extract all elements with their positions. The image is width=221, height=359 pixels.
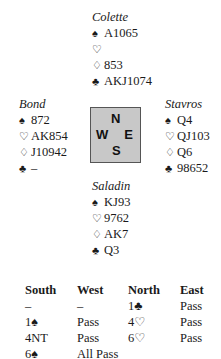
diamond-icon: ♢: [165, 144, 177, 160]
north-diamonds: ♢853: [92, 57, 152, 73]
bid: –: [25, 298, 77, 314]
north-hearts: ♡: [92, 41, 152, 57]
heart-icon: ♡: [165, 128, 177, 144]
east-hand: Stavros ♠Q4 ♡QJ103 ♢Q6 ♣98652: [165, 96, 210, 176]
compass-west: W: [96, 127, 108, 142]
auction-row: 4NT Pass 6♡ Pass: [25, 330, 221, 346]
east-hearts: ♡QJ103: [165, 128, 210, 144]
header-west: West: [77, 282, 128, 298]
spade-icon: ♠: [92, 25, 104, 41]
south-spades: ♠KJ93: [92, 194, 130, 210]
spade-icon: ♠: [92, 194, 104, 210]
bid: 1♣: [128, 298, 180, 314]
east-diamonds: ♢Q6: [165, 144, 210, 160]
player-name-east: Stavros: [165, 96, 210, 112]
spade-icon: ♠: [19, 112, 31, 128]
west-spades: ♠872: [19, 112, 68, 128]
bid: Pass: [77, 330, 128, 346]
player-name-north: Colette: [92, 9, 152, 25]
bid: 4♡: [128, 314, 180, 330]
auction-header-row: South West North East: [25, 282, 221, 298]
south-diamonds: ♢AK7: [92, 226, 130, 242]
west-hearts: ♡AK854: [19, 128, 68, 144]
spade-icon: ♠: [165, 112, 177, 128]
header-north: North: [128, 282, 180, 298]
east-clubs: ♣98652: [165, 160, 210, 176]
club-icon: ♣: [92, 73, 104, 89]
compass-box: N W E S: [90, 107, 141, 163]
bid: 6♠: [25, 346, 77, 359]
auction-row: 1♠ Pass 4♡ Pass: [25, 314, 221, 330]
bid: 4NT: [25, 330, 77, 346]
compass-north: N: [111, 111, 120, 126]
west-diamonds: ♢J10942: [19, 144, 68, 160]
diamond-icon: ♢: [19, 144, 31, 160]
bid: Pass: [180, 314, 221, 330]
compass-south: S: [112, 143, 121, 158]
south-hearts: ♡9762: [92, 210, 130, 226]
player-name-west: Bond: [19, 96, 68, 112]
bid: Pass: [180, 298, 221, 314]
bid: 1♠: [25, 314, 77, 330]
bid: 6♡: [128, 330, 180, 346]
heart-icon: ♡: [19, 128, 31, 144]
header-south: South: [25, 282, 77, 298]
bid: Pass: [180, 330, 221, 346]
club-icon: ♣: [19, 160, 31, 176]
north-spades: ♠A1065: [92, 25, 152, 41]
bid: [180, 346, 221, 359]
bid: [128, 346, 180, 359]
club-icon: ♣: [92, 242, 104, 258]
west-hand: Bond ♠872 ♡AK854 ♢J10942 ♣–: [19, 96, 68, 176]
header-east: East: [180, 282, 221, 298]
heart-icon: ♡: [92, 210, 104, 226]
club-icon: ♣: [165, 160, 177, 176]
auction-table: South West North East – – 1♣ Pass 1♠ Pas…: [25, 282, 221, 359]
diamond-icon: ♢: [92, 226, 104, 242]
compass-east: E: [124, 127, 133, 142]
south-hand: Saladin ♠KJ93 ♡9762 ♢AK7 ♣Q3: [92, 178, 130, 258]
north-hand: Colette ♠A1065 ♡ ♢853 ♣AKJ1074: [92, 9, 152, 89]
bid: All Pass: [77, 346, 128, 359]
west-clubs: ♣–: [19, 160, 68, 176]
auction-row: 6♠ All Pass: [25, 346, 221, 359]
bid: Pass: [77, 314, 128, 330]
bid: –: [77, 298, 128, 314]
south-clubs: ♣Q3: [92, 242, 130, 258]
east-spades: ♠Q4: [165, 112, 210, 128]
auction-row: – – 1♣ Pass: [25, 298, 221, 314]
heart-icon: ♡: [92, 41, 104, 57]
north-clubs: ♣AKJ1074: [92, 73, 152, 89]
diamond-icon: ♢: [92, 57, 104, 73]
player-name-south: Saladin: [92, 178, 130, 194]
